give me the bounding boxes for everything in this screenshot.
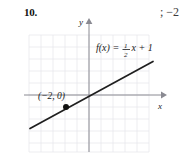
figure-container: 10. ; −2 [0,0,194,166]
y-axis-label: y [78,17,83,27]
y-axis-arrowhead [86,18,93,24]
svg-text:f(x) =: f(x) = [96,42,119,54]
coordinate-plane-figure: y x (−2, 0) f(x) = 1 2 x + 1 [0,0,194,166]
point-label: (−2, 0) [38,91,65,102]
y-axis [86,18,93,152]
function-equation-label: f(x) = 1 2 x + 1 [96,42,153,59]
svg-text:1: 1 [124,42,128,50]
svg-text:2: 2 [124,51,128,59]
x-axis-label: x [157,101,162,111]
svg-text:x + 1: x + 1 [131,42,153,53]
x-axis-arrowhead [161,92,167,99]
x-intercept-point [63,104,69,110]
